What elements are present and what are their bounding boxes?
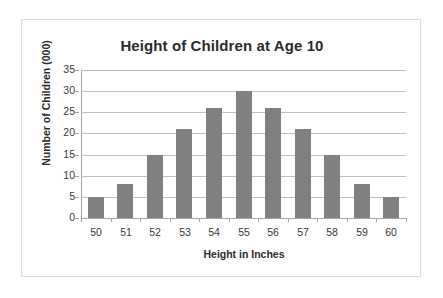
y-axis-tick-mark bbox=[75, 218, 79, 219]
bar bbox=[383, 197, 399, 218]
x-axis-tick-label: 53 bbox=[170, 227, 200, 238]
x-axis-tick-label: 59 bbox=[347, 227, 377, 238]
y-axis-tick-mark bbox=[75, 176, 79, 177]
x-axis-tick-label: 55 bbox=[229, 227, 259, 238]
bar bbox=[236, 91, 252, 218]
y-axis-tick-mark bbox=[75, 155, 79, 156]
x-axis-tick-mark bbox=[406, 218, 407, 222]
y-axis-tick-label: 20 bbox=[51, 127, 75, 138]
y-axis-tick-label: 15 bbox=[51, 149, 75, 160]
x-axis-tick-label: 50 bbox=[81, 227, 111, 238]
y-axis-tick-label: 35 bbox=[51, 64, 75, 75]
bar bbox=[147, 155, 163, 218]
bar bbox=[206, 108, 222, 218]
y-axis-tick-mark bbox=[75, 70, 79, 71]
y-axis-tick-label: 25 bbox=[51, 106, 75, 117]
bar bbox=[88, 197, 104, 218]
bar bbox=[324, 155, 340, 218]
y-axis-tick-mark bbox=[75, 112, 79, 113]
x-axis-tick-label: 52 bbox=[140, 227, 170, 238]
x-axis-tick-label: 57 bbox=[288, 227, 318, 238]
x-axis-tick-label: 58 bbox=[317, 227, 347, 238]
bar bbox=[117, 184, 133, 218]
x-axis-tick-label: 60 bbox=[376, 227, 406, 238]
bar bbox=[295, 129, 311, 218]
gridline bbox=[81, 70, 406, 71]
x-axis-tick-marks bbox=[81, 218, 407, 223]
x-axis-tick-label: 56 bbox=[258, 227, 288, 238]
chart-title: Height of Children at Age 10 bbox=[22, 37, 422, 54]
bar bbox=[265, 108, 281, 218]
y-axis-tick-label: 10 bbox=[51, 170, 75, 181]
y-axis-tick-label: 0 bbox=[51, 212, 75, 223]
chart-container: Height of Children at Age 10 Number of C… bbox=[21, 19, 421, 277]
x-axis-tick-label: 54 bbox=[199, 227, 229, 238]
y-axis-tick-label: 5 bbox=[51, 191, 75, 202]
y-axis-tick-mark bbox=[75, 91, 79, 92]
x-axis-tick-labels: 5051525354555657585960 bbox=[81, 227, 407, 241]
y-axis-tick-labels: 05101520253035 bbox=[47, 70, 75, 218]
y-axis-tick-mark bbox=[75, 197, 79, 198]
plot-area bbox=[81, 70, 406, 218]
x-axis-title: Height in Inches bbox=[81, 248, 407, 260]
x-axis-tick-label: 51 bbox=[111, 227, 141, 238]
x-axis-line bbox=[81, 218, 406, 219]
y-axis-tick-label: 30 bbox=[51, 85, 75, 96]
bar bbox=[354, 184, 370, 218]
bar bbox=[176, 129, 192, 218]
y-axis-tick-mark bbox=[75, 133, 79, 134]
